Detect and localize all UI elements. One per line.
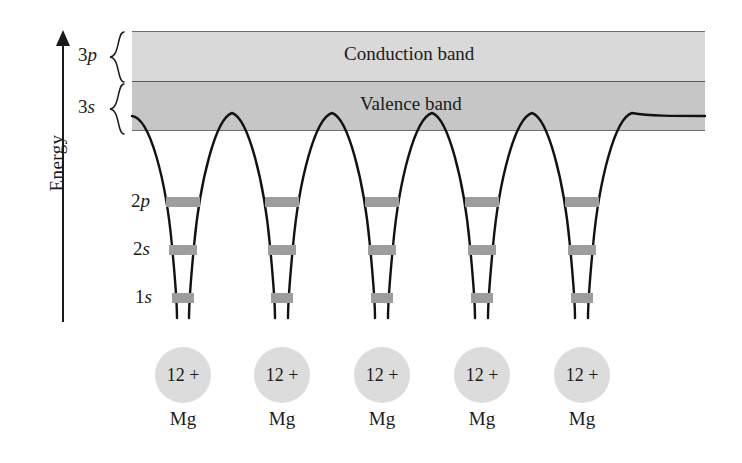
orbital-2p-number: 2 (131, 190, 141, 211)
orbital-label-3p: 3p (78, 44, 97, 66)
atom-core-3: 12 + (354, 347, 410, 403)
atom-charge-label: 12 + (167, 365, 200, 386)
atom-core-4: 12 + (454, 347, 510, 403)
atom-symbol-5: Mg (554, 408, 610, 430)
atom-charge-label: 12 + (466, 365, 499, 386)
brace-3s-icon (108, 83, 126, 135)
core-level-2p (265, 197, 299, 207)
orbital-1s-letter: s (145, 286, 152, 307)
core-level-1s (471, 293, 493, 303)
valence-band-label: Valence band (360, 93, 462, 115)
orbital-3s-letter: s (88, 96, 95, 117)
atom-symbol-3: Mg (354, 408, 410, 430)
core-level-2s (468, 245, 496, 255)
figure-canvas: Energy 3p 3s Conduction band Valence ban… (0, 0, 742, 463)
core-level-2p (465, 197, 499, 207)
core-level-2s (169, 245, 197, 255)
core-level-2p (166, 197, 200, 207)
atom-core-1: 12 + (155, 347, 211, 403)
atom-symbol-4: Mg (454, 408, 510, 430)
atom-symbol-2: Mg (254, 408, 310, 430)
core-level-2p (565, 197, 599, 207)
orbital-label-1s: 1s (135, 286, 152, 308)
core-level-2s (268, 245, 296, 255)
orbital-3p-number: 3 (78, 44, 88, 65)
orbital-1s-number: 1 (135, 286, 145, 307)
orbital-2s-letter: s (143, 238, 150, 259)
atom-charge-label: 12 + (566, 365, 599, 386)
orbital-2s-number: 2 (133, 238, 143, 259)
core-level-1s (172, 293, 194, 303)
core-level-2s (368, 245, 396, 255)
core-level-1s (271, 293, 293, 303)
orbital-3s-number: 3 (78, 96, 88, 117)
core-level-1s (371, 293, 393, 303)
band-group: Conduction band Valence band (132, 31, 705, 131)
atom-core-5: 12 + (554, 347, 610, 403)
conduction-band-label: Conduction band (344, 43, 474, 65)
core-level-2s (568, 245, 596, 255)
energy-axis-label: Energy (46, 103, 68, 223)
atom-symbol-1: Mg (155, 408, 211, 430)
core-level-1s (571, 293, 593, 303)
brace-3p-icon (108, 31, 126, 83)
atom-charge-label: 12 + (266, 365, 299, 386)
orbital-label-2p: 2p (131, 190, 150, 212)
atom-core-2: 12 + (254, 347, 310, 403)
orbital-3p-letter: p (88, 44, 98, 65)
orbital-label-2s: 2s (133, 238, 150, 260)
orbital-2p-letter: p (141, 190, 151, 211)
core-level-2p (365, 197, 399, 207)
atom-charge-label: 12 + (366, 365, 399, 386)
orbital-label-3s: 3s (78, 96, 95, 118)
